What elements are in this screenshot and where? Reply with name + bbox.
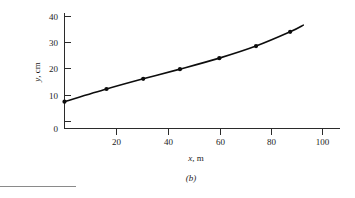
data-point [178, 67, 182, 71]
y-tick-label-20: 20 [49, 64, 59, 74]
x-tick-label-80: 80 [267, 137, 277, 147]
data-point [288, 30, 292, 34]
x-axis-title: x, m [187, 153, 204, 163]
y-axis-title-unit: , cm [32, 62, 42, 78]
figure-container: 40 30 20 10 0 20 40 60 80 100 y, cm x, m… [0, 0, 355, 198]
y-axis-title: y, cm [32, 62, 42, 83]
x-axis-ticks [117, 129, 323, 135]
y-axis-ticks [65, 17, 71, 122]
figure-caption: (b) [186, 173, 197, 183]
data-point [254, 44, 258, 48]
data-point [62, 100, 66, 104]
x-tick-label-40: 40 [164, 137, 174, 147]
x-tick-label-60: 60 [216, 137, 226, 147]
scatter-line-plot: 40 30 20 10 0 20 40 60 80 100 y, cm x, m… [0, 0, 355, 198]
data-point [141, 77, 145, 81]
data-series-group [62, 25, 303, 104]
y-tick-label-30: 30 [49, 38, 59, 48]
y-tick-label-40: 40 [49, 12, 59, 22]
data-point [217, 56, 221, 60]
x-tick-label-100: 100 [316, 137, 330, 147]
y-tick-label-0: 0 [54, 124, 59, 134]
y-tick-label-10: 10 [49, 91, 59, 101]
x-tick-label-20: 20 [112, 137, 122, 147]
data-point [104, 87, 108, 91]
data-curve [65, 25, 304, 102]
x-axis-title-unit: , m [192, 153, 204, 163]
